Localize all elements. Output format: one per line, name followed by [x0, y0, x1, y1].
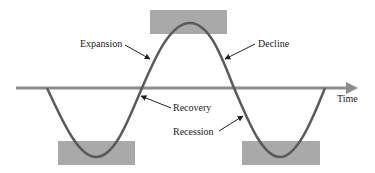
- recession-arrow-icon: [219, 116, 243, 131]
- business-cycle-diagram: Expansion Decline Recovery Recession Tim…: [0, 0, 375, 173]
- expansion-arrow-icon: [125, 45, 150, 59]
- trough-box-left: [58, 141, 135, 165]
- recovery-arrow-icon: [141, 96, 171, 108]
- time-axis-label: Time: [337, 93, 358, 104]
- decline-arrow-icon: [225, 44, 255, 59]
- recovery-label: Recovery: [173, 102, 211, 113]
- trough-box-right: [242, 141, 320, 165]
- expansion-label: Expansion: [80, 38, 122, 49]
- decline-label: Decline: [258, 38, 290, 49]
- recession-label: Recession: [173, 126, 214, 137]
